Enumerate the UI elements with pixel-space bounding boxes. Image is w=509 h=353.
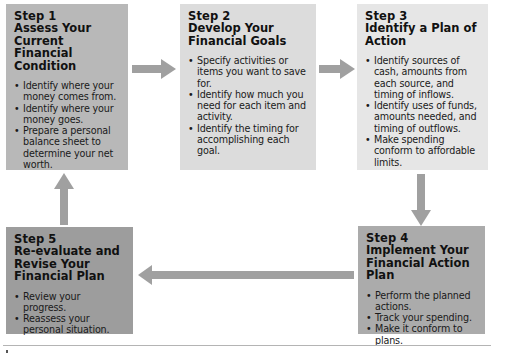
bullet: Make it conform to plans. — [366, 323, 477, 346]
bullet: Identify where your money comes from. — [14, 80, 120, 103]
step-2-title: Develop Your Financial Goals — [188, 22, 308, 47]
step-3-title: Identify a Plan of Action — [365, 22, 480, 47]
bullet: Specify activities or items you want to … — [188, 55, 308, 89]
step-2-box: Step 2 Develop Your Financial Goals Spec… — [180, 4, 316, 170]
step-4-title: Implement Your Financial Action Plan — [366, 244, 477, 282]
bullet: Perform the planned actions. — [366, 290, 477, 313]
bullet: Review your progress. — [14, 291, 125, 314]
bullet: Identify uses of funds, amounts needed, … — [365, 100, 480, 134]
arrow-up-icon — [53, 173, 75, 225]
bullet: Track your spending. — [366, 312, 477, 323]
step-5-bullets: Review your progress. Reassess your pers… — [14, 291, 125, 336]
step-5-title: Re-evaluate and Revise Your Financial Pl… — [14, 245, 125, 283]
arrow-right-icon — [319, 58, 355, 80]
step-1-bullets: Identify where your money comes from. Id… — [14, 80, 120, 170]
bullet: Make spending conform to affordable limi… — [365, 134, 480, 168]
bullet: Identify the timing for accomplishing ea… — [188, 123, 308, 157]
bullet: Identify how much you need for each item… — [188, 89, 308, 123]
arrow-left-icon — [138, 265, 354, 285]
bullet: Identify sources of cash, amounts from e… — [365, 55, 480, 100]
step-2-bullets: Specify activities or items you want to … — [188, 55, 308, 157]
step-1-box: Step 1 Assess Your Current Financial Con… — [6, 4, 128, 170]
step-4-bullets: Perform the planned actions. Track your … — [366, 290, 477, 346]
bullet: Identify where your money goes. — [14, 103, 120, 126]
step-1-title: Assess Your Current Financial Condition — [14, 22, 120, 72]
bullet: Prepare a personal balance sheet to dete… — [14, 125, 120, 170]
step-3-box: Step 3 Identify a Plan of Action Identif… — [357, 4, 488, 170]
separator-line — [3, 345, 491, 346]
arrow-right-icon — [132, 58, 176, 80]
arrow-down-icon — [410, 174, 432, 226]
step-3-bullets: Identify sources of cash, amounts from e… — [365, 55, 480, 168]
bullet: Reassess your personal situation. — [14, 313, 125, 336]
step-4-box: Step 4 Implement Your Financial Action P… — [358, 226, 485, 334]
step-5-box: Step 5 Re-evaluate and Revise Your Finan… — [6, 227, 133, 334]
